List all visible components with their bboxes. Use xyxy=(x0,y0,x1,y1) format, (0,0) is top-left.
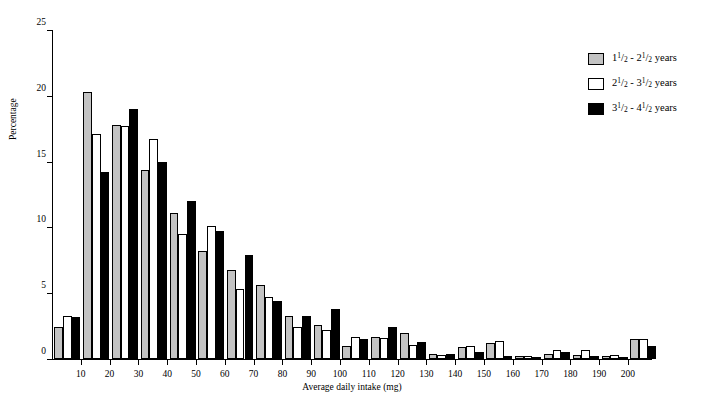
bar xyxy=(236,289,245,359)
y-tick xyxy=(47,293,52,294)
bar xyxy=(54,327,63,359)
legend-swatch-icon-1 xyxy=(588,78,604,90)
x-tick xyxy=(513,360,514,365)
bar xyxy=(314,325,323,359)
bar xyxy=(351,337,360,359)
x-tick xyxy=(110,360,111,365)
bar xyxy=(293,327,302,359)
x-tick-label: 190 xyxy=(592,369,606,379)
bar xyxy=(648,346,657,359)
bar xyxy=(553,350,562,359)
bar xyxy=(170,213,179,359)
x-tick xyxy=(340,360,341,365)
x-tick-label: 110 xyxy=(362,369,376,379)
x-tick xyxy=(282,360,283,365)
bar xyxy=(486,343,495,359)
bar xyxy=(417,342,426,359)
plot-area: 0510152025 10203040506070809010011012013… xyxy=(52,30,652,360)
x-tick-label: 130 xyxy=(419,369,433,379)
x-tick xyxy=(599,360,600,365)
bar xyxy=(380,338,389,359)
bar xyxy=(92,134,101,359)
bar xyxy=(216,231,225,359)
x-axis-title: Average daily intake (mg) xyxy=(52,382,652,392)
x-tick-label: 30 xyxy=(134,369,144,379)
bar xyxy=(331,309,340,359)
bar xyxy=(619,357,628,359)
bar xyxy=(265,297,274,359)
bar xyxy=(129,109,138,359)
bar xyxy=(573,355,582,359)
x-tick xyxy=(628,360,629,365)
legend-label-2: 31/2 - 41/2 years xyxy=(612,101,677,114)
bar xyxy=(561,352,570,359)
bar xyxy=(630,339,639,359)
x-tick-label: 50 xyxy=(191,369,201,379)
x-tick xyxy=(254,360,255,365)
legend-swatch-icon-2 xyxy=(588,103,604,115)
legend-swatch-icon-0 xyxy=(588,53,604,65)
y-tick-label: 0 xyxy=(30,347,46,356)
y-tick-label: 5 xyxy=(30,281,46,290)
x-tick xyxy=(196,360,197,365)
bar xyxy=(532,357,541,359)
x-tick-label: 100 xyxy=(333,369,347,379)
bar xyxy=(388,327,397,359)
bar xyxy=(187,201,196,359)
bar xyxy=(400,333,409,359)
bar xyxy=(371,337,380,359)
bar xyxy=(342,346,351,359)
chart-figure: Percentage 0510152025 102030405060708090… xyxy=(0,0,709,404)
bar xyxy=(285,316,294,359)
y-tick xyxy=(47,96,52,97)
x-tick-label: 160 xyxy=(506,369,520,379)
x-tick-label: 10 xyxy=(76,369,86,379)
y-tick-label: 20 xyxy=(30,84,46,93)
x-tick-label: 140 xyxy=(448,369,462,379)
bar xyxy=(429,354,438,359)
bar xyxy=(149,139,158,359)
bar xyxy=(245,255,254,359)
bar xyxy=(524,356,533,359)
x-tick-label: 60 xyxy=(220,369,230,379)
x-tick xyxy=(167,360,168,365)
x-tick-label: 120 xyxy=(390,369,404,379)
x-tick-label: 200 xyxy=(621,369,635,379)
bar xyxy=(207,226,216,359)
bar xyxy=(581,350,590,359)
bar xyxy=(302,316,311,359)
bar xyxy=(590,356,599,359)
legend-label-0: 11/2 - 21/2 years xyxy=(612,51,677,64)
x-tick-label: 170 xyxy=(534,369,548,379)
x-tick-label: 150 xyxy=(477,369,491,379)
x-tick-label: 90 xyxy=(306,369,316,379)
bar xyxy=(475,352,484,359)
bar xyxy=(602,356,611,359)
bar xyxy=(360,339,369,359)
bar xyxy=(466,346,475,359)
y-tick xyxy=(47,30,52,31)
bar xyxy=(639,339,648,359)
x-tick xyxy=(426,360,427,365)
bar xyxy=(256,285,265,359)
bar xyxy=(322,330,331,359)
bar xyxy=(158,162,167,359)
bar xyxy=(437,355,446,359)
bar xyxy=(446,354,455,359)
y-axis-title: Percentage xyxy=(8,98,18,140)
x-tick-label: 20 xyxy=(105,369,115,379)
bar xyxy=(83,92,92,359)
legend-label-1: 21/2 - 31/2 years xyxy=(612,76,677,89)
y-tick xyxy=(47,162,52,163)
bar xyxy=(409,345,418,359)
bar xyxy=(121,126,130,359)
x-tick xyxy=(484,360,485,365)
bar-series-group xyxy=(53,30,652,359)
x-axis-line xyxy=(52,359,652,360)
x-tick xyxy=(542,360,543,365)
bar xyxy=(72,317,81,359)
y-tick xyxy=(47,227,52,228)
x-tick xyxy=(138,360,139,365)
bar xyxy=(273,301,282,359)
bar xyxy=(101,172,110,359)
